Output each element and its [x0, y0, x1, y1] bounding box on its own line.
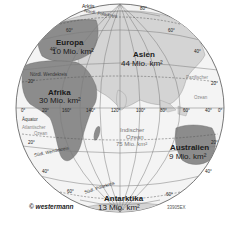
ocean-indisch-area: 75 Mio. km² — [116, 141, 147, 147]
continent-australien-name: Australien — [170, 144, 209, 152]
lon-label: 0° — [218, 109, 222, 114]
lat-label: 40° — [50, 48, 57, 53]
continent-antarktika-area: 13 Mio. km² — [98, 204, 140, 212]
continent-afrika-area: 30 Mio. km² — [39, 97, 81, 105]
map-code: 33905EX — [167, 206, 186, 211]
lat-label: 80° — [140, 7, 147, 12]
continent-antarktika-name: Antarktika — [104, 195, 143, 203]
wendekreis-n-label: Nördl. Wendekreis — [30, 73, 67, 78]
lon-label: 20° — [42, 109, 49, 114]
lon-label: 100° — [136, 109, 145, 114]
lon-label: 120° — [111, 109, 120, 114]
lat-label: 20° — [28, 141, 35, 146]
lat-label: 20° — [211, 141, 218, 146]
publisher-credit: © westermann — [29, 204, 74, 211]
lat-label: 20° — [211, 82, 218, 87]
lat-label: 60° — [66, 29, 73, 34]
lat-label: 20° — [28, 80, 35, 85]
ocean-pazifik-name: Pazifischer — [186, 76, 208, 81]
continent-europa-name: Europa — [56, 39, 84, 47]
lat-label: 40° — [205, 170, 212, 175]
lat-label: 60° — [166, 193, 173, 198]
continent-australien-area: 9 Mio. km² — [169, 153, 206, 161]
continent-asien-area: 44 Mio. km² — [121, 60, 163, 68]
ocean-atlantik-name2: Ozean — [34, 132, 47, 137]
lon-label: 160° — [62, 109, 71, 114]
ocean-pazifik-name2: Ozean — [194, 96, 207, 101]
lon-label: 60° — [183, 109, 190, 114]
lon-label: 80° — [160, 109, 167, 114]
ocean-atlantik-name: Atlantischer — [22, 126, 46, 131]
lat-label: 60° — [67, 190, 74, 195]
continent-europa-area: 10 Mio. km² — [52, 48, 94, 56]
lon-label: 140° — [86, 109, 95, 114]
lat-label: 40° — [42, 170, 49, 175]
ocean-indisch-name: Indischer — [120, 127, 144, 133]
lon-label: 40° — [205, 109, 212, 114]
equator-label: Äquator — [22, 118, 38, 123]
lat-label: 40° — [194, 50, 201, 55]
ocean-indisch-name2: Ozean — [126, 134, 144, 140]
continent-asien-name: Asien — [133, 51, 155, 59]
lon-label: 0° — [21, 109, 25, 114]
lat-label: 60° — [168, 29, 175, 34]
